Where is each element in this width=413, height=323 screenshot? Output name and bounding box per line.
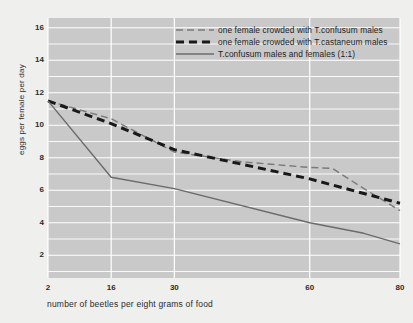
y-tick-label: 6 [26,185,44,194]
x-tick-label: 16 [96,283,126,292]
legend-label-2: one female crowded with T.castaneum male… [218,37,388,47]
y-tick-label: 2 [26,250,44,259]
y-tick-label: 8 [26,153,44,162]
chart-figure: 246810121416 216306080 one female crowde… [0,0,413,323]
y-tick-label: 16 [26,23,44,32]
y-tick-label: 4 [26,218,44,227]
y-tick-label: 10 [26,120,44,129]
x-tick-label: 60 [295,283,325,292]
x-tick-label: 80 [385,283,413,292]
x-axis-title: number of beetles per eight grams of foo… [47,299,213,309]
y-tick-label: 14 [26,55,44,64]
legend-label-3: T.confusum males and females (1:1) [218,49,355,59]
legend-label-1: one female crowded with T.confusum males [218,25,383,35]
y-axis-title: eggs per female per day [17,15,26,155]
x-tick-label: 30 [159,283,189,292]
x-tick-label: 2 [33,283,63,292]
y-tick-label: 12 [26,88,44,97]
